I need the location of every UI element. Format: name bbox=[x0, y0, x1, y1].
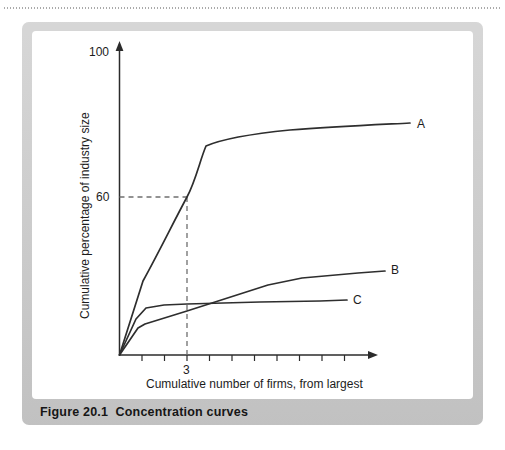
curve-c-path bbox=[120, 300, 348, 355]
x-axis bbox=[120, 351, 379, 359]
y-tick-label-60: 60 bbox=[96, 190, 109, 204]
curve-label-c: C bbox=[353, 293, 362, 307]
figure-caption: Figure 20.1 Concentration curves bbox=[40, 400, 460, 424]
x-axis-ticks bbox=[142, 355, 345, 361]
curve-b-path bbox=[120, 271, 386, 355]
x-axis-title: Cumulative number of firms, from largest bbox=[146, 377, 363, 391]
figure-page: 100 60 3 A B C Cumulative number of firm… bbox=[0, 0, 505, 450]
curve-label-b: B bbox=[391, 263, 399, 277]
curve-a-path bbox=[120, 123, 411, 355]
y-tick-label-100: 100 bbox=[89, 45, 109, 59]
x-axis-arrowhead bbox=[368, 351, 378, 359]
y-axis bbox=[116, 41, 124, 355]
x-tick-label-3: 3 bbox=[183, 363, 190, 377]
y-axis-title: Cumulative percentage of industry size bbox=[78, 112, 92, 319]
y-axis-arrowhead bbox=[116, 41, 124, 51]
curve-label-a: A bbox=[417, 117, 425, 131]
